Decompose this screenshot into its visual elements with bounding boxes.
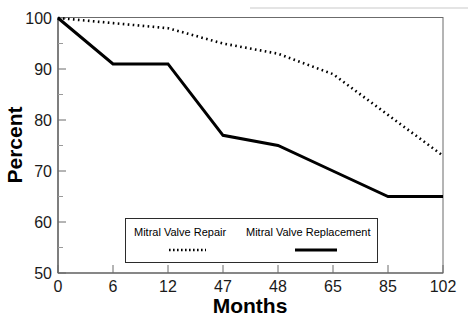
series-line-mitral-valve-repair: [58, 18, 443, 156]
x-tick-label-48: 48: [269, 278, 287, 295]
y-tick-label-70: 70: [34, 163, 52, 180]
series-line-mitral-valve-replacement: [58, 18, 443, 197]
chart-legend: Mitral Valve Repair Mitral Valve Replace…: [126, 219, 378, 263]
y-axis-title: Percent: [3, 106, 26, 183]
survival-curve-chart: 100 90 80 70 60 50 0 6 12 47 48 65 85 10…: [0, 0, 472, 317]
x-tick-label-102: 102: [430, 278, 457, 295]
y-axis-minor-ticks: [58, 44, 63, 248]
legend-label-mitral-valve-repair: Mitral Valve Repair: [134, 226, 226, 238]
x-tick-label-47: 47: [214, 278, 232, 295]
x-tick-label-0: 0: [54, 278, 63, 295]
x-tick-label-6: 6: [109, 278, 118, 295]
y-tick-label-100: 100: [25, 10, 52, 27]
y-tick-label-90: 90: [34, 61, 52, 78]
x-axis-title: Months: [213, 294, 288, 317]
x-tick-label-65: 65: [324, 278, 342, 295]
x-tick-label-12: 12: [159, 278, 177, 295]
x-tick-label-85: 85: [379, 278, 397, 295]
legend-label-mitral-valve-replacement: Mitral Valve Replacement: [246, 226, 371, 238]
chart-screenshot: 100 90 80 70 60 50 0 6 12 47 48 65 85 10…: [0, 0, 472, 317]
x-axis-ticks: [58, 265, 443, 273]
y-tick-label-60: 60: [34, 214, 52, 231]
y-tick-label-80: 80: [34, 112, 52, 129]
y-tick-label-50: 50: [34, 265, 52, 282]
